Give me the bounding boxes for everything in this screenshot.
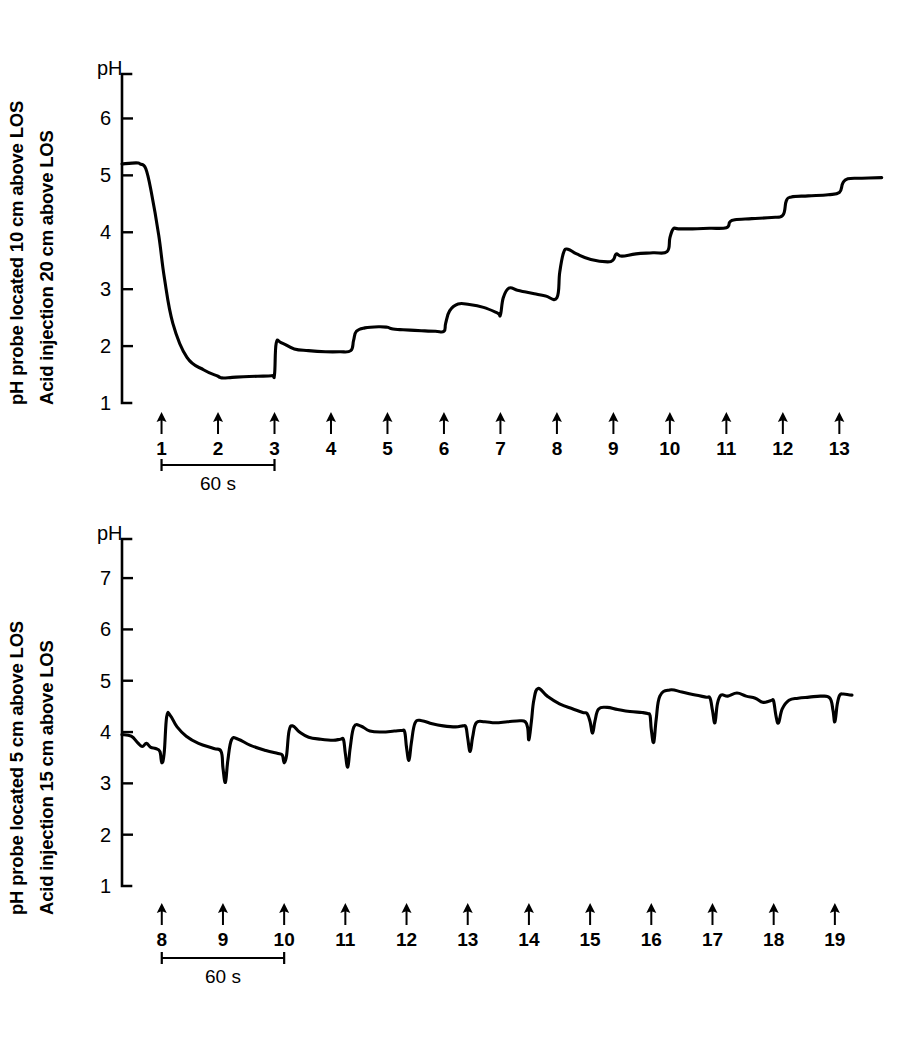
injection-arrow-icon-9 — [218, 903, 228, 925]
top-panel-plot — [0, 0, 912, 510]
injection-arrow-icon-18 — [769, 903, 779, 925]
injection-label-11: 11 — [716, 439, 736, 458]
injection-arrow-icon-8 — [157, 903, 167, 925]
injection-arrow-icon-11 — [340, 903, 350, 925]
injection-arrow-icon-7 — [495, 412, 505, 434]
injection-arrow-icon-17 — [707, 903, 717, 925]
y-tick-label-6: 6 — [89, 108, 111, 128]
injection-arrow-icon-6 — [439, 412, 449, 434]
injection-label-6: 6 — [439, 439, 450, 458]
injection-label-4: 4 — [326, 439, 337, 458]
injection-arrow-icon-3 — [270, 412, 280, 434]
time-scalebar-label: 60 s — [200, 474, 236, 493]
injection-arrow-icon-12 — [402, 903, 412, 925]
injection-arrow-icon-2 — [213, 412, 223, 434]
bottom-panel-plot — [0, 500, 912, 1046]
injection-label-5: 5 — [382, 439, 393, 458]
y-tick-label-5: 5 — [89, 165, 111, 185]
injection-arrow-icon-1 — [157, 412, 167, 434]
injection-label-13: 13 — [457, 930, 478, 949]
injection-arrow-icon-10 — [665, 412, 675, 434]
injection-arrow-icon-8 — [552, 412, 562, 434]
injection-arrow-icon-11 — [721, 412, 731, 434]
injection-label-3: 3 — [269, 439, 280, 458]
injection-arrow-icon-4 — [326, 412, 336, 434]
injection-arrow-icon-5 — [382, 412, 392, 434]
injection-label-8: 8 — [552, 439, 563, 458]
injection-label-9: 9 — [608, 439, 619, 458]
injection-label-1: 1 — [156, 439, 167, 458]
injection-label-15: 15 — [580, 930, 601, 949]
injection-arrow-icon-12 — [778, 412, 788, 434]
injection-arrow-icon-16 — [646, 903, 656, 925]
y-tick-label-3: 3 — [89, 773, 111, 793]
time-scalebar — [162, 459, 275, 471]
y-tick-label-2: 2 — [89, 336, 111, 356]
injection-label-9: 9 — [218, 930, 229, 949]
y-tick-label-5: 5 — [89, 671, 111, 691]
injection-label-2: 2 — [213, 439, 224, 458]
time-scalebar — [162, 952, 284, 964]
y-tick-label-3: 3 — [89, 279, 111, 299]
y-tick-label-6: 6 — [89, 619, 111, 639]
y-tick-label-4: 4 — [89, 222, 111, 242]
injection-label-14: 14 — [518, 930, 539, 949]
ph-trace-line — [122, 688, 852, 782]
injection-arrow-icon-9 — [608, 412, 618, 434]
y-tick-label-7: 7 — [89, 568, 111, 588]
injection-arrow-icon-13 — [463, 903, 473, 925]
injection-label-10: 10 — [274, 930, 295, 949]
injection-label-8: 8 — [156, 930, 167, 949]
injection-label-12: 12 — [396, 930, 417, 949]
y-tick-label-1: 1 — [89, 393, 111, 413]
injection-label-10: 10 — [659, 439, 680, 458]
bottom-panel: pH probe located 5 cm above LOS Acid inj… — [0, 500, 912, 1046]
y-tick-label-1: 1 — [89, 876, 111, 896]
ph-trace-line — [122, 163, 882, 378]
injection-arrow-icon-13 — [834, 412, 844, 434]
injection-label-19: 19 — [824, 930, 845, 949]
injection-arrow-icon-15 — [585, 903, 595, 925]
injection-arrow-icon-19 — [830, 903, 840, 925]
injection-label-7: 7 — [495, 439, 506, 458]
time-scalebar-label: 60 s — [205, 967, 241, 986]
y-tick-label-2: 2 — [89, 825, 111, 845]
pH-recording-figure: pH probe located 10 cm above LOS Acid in… — [0, 0, 912, 1046]
y-axis-spine — [122, 74, 131, 403]
injection-label-13: 13 — [829, 439, 850, 458]
injection-label-11: 11 — [335, 930, 355, 949]
top-panel: pH probe located 10 cm above LOS Acid in… — [0, 0, 912, 510]
y-tick-label-4: 4 — [89, 722, 111, 742]
injection-label-16: 16 — [641, 930, 662, 949]
injection-arrow-icon-10 — [279, 903, 289, 925]
injection-label-17: 17 — [702, 930, 723, 949]
injection-arrow-icon-14 — [524, 903, 534, 925]
injection-label-12: 12 — [772, 439, 793, 458]
injection-label-18: 18 — [763, 930, 784, 949]
